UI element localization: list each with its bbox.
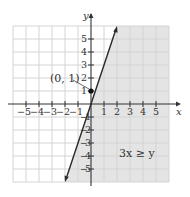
x-tick-label: 5 [153, 106, 159, 117]
x-tick-label: 3 [127, 106, 133, 117]
y-tick-label: 5 [85, 163, 91, 174]
y-tick-label: 3 [81, 59, 87, 70]
x-tick-label: −5 [17, 106, 31, 117]
test-point [88, 88, 93, 93]
y-tick-label: 4 [81, 46, 87, 57]
x-axis-label: x [176, 106, 182, 117]
y-tick-label: 2 [81, 72, 87, 83]
x-tick-label: 1 [101, 106, 107, 117]
y-tick-label: 1 [81, 85, 87, 96]
x-tick-label: −4 [30, 106, 44, 117]
y-tick-label: 5 [81, 33, 87, 44]
inequality-graph: −5 −4 −3 −2 −1 1 2 3 4 5 5 4 3 2 1 − 1 −… [0, 0, 190, 197]
y-axis-arrow-icon [89, 13, 94, 18]
y-tick-label: 4 [85, 150, 91, 161]
y-tick-label: 2 [85, 124, 91, 135]
x-tick-label: 2 [114, 106, 120, 117]
x-tick-label: 4 [140, 106, 146, 117]
y-axis-label: y [82, 10, 89, 21]
point-label: (0, 1) [50, 72, 80, 85]
inequality-label: 3x ≥ y [119, 147, 155, 160]
x-tick-label: −3 [43, 106, 57, 117]
x-tick-label: −2 [56, 106, 70, 117]
y-tick-label: 3 [85, 137, 91, 148]
